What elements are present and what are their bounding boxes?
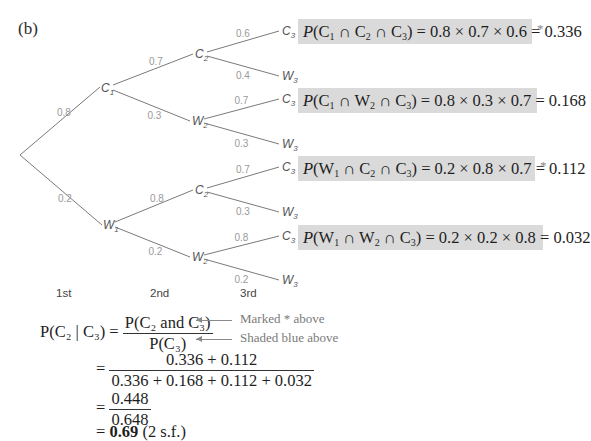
node-c1: C1	[101, 81, 114, 97]
node-w2: W2	[192, 250, 208, 266]
leaf-c3: C3	[282, 160, 296, 176]
probability-calculation-box: P(C1 ∩ W2 ∩ C3) = 0.8 × 0.3 × 0.7 = 0.16…	[298, 88, 537, 113]
asterisk-marker: *	[537, 21, 544, 37]
branch-probability: 0.3	[236, 206, 250, 217]
branch-probability: 0.6	[236, 28, 250, 39]
sum-denominator: 0.336 + 0.168 + 0.112 + 0.032	[109, 370, 314, 391]
leaf-c3: C3	[282, 24, 296, 40]
branch-probability: 0.2	[149, 246, 163, 257]
branch-probability: 0.8	[57, 107, 71, 118]
node-c2: C2	[195, 47, 209, 63]
result-value: 0.69	[109, 422, 138, 441]
equals-sign: =	[96, 359, 105, 378]
tree-branch	[20, 155, 102, 225]
branch-probability: 0.7	[235, 95, 249, 106]
branch-probability: 0.7	[236, 164, 250, 175]
branch-probability: 0.4	[236, 70, 250, 81]
leaf-w3: W3	[282, 205, 298, 221]
node-w2: W2	[192, 114, 208, 130]
equals-sign: =	[96, 422, 105, 441]
stage-label-1st: 1st	[56, 287, 72, 299]
conditional-result: = 0.69 (2 s.f.)	[96, 422, 186, 441]
annotation-shaded: Shaded blue above	[196, 330, 338, 346]
branch-probability: 0.2	[58, 193, 72, 204]
branch-probability: 0.3	[235, 138, 249, 149]
node-w1: W1	[103, 218, 119, 234]
stage-label-2nd: 2nd	[150, 287, 169, 299]
tree-branch	[20, 87, 100, 155]
branch-probability: 0.2	[235, 274, 249, 285]
annotation-marked: Marked * above	[196, 311, 324, 327]
simplified-numerator: 0.448	[109, 389, 150, 409]
leaf-w3: W3	[282, 69, 298, 85]
leaf-w3: W3	[282, 137, 298, 153]
conditional-step-2: = 0.336 + 0.112 0.336 + 0.168 + 0.112 + …	[96, 350, 314, 391]
conditional-step-1: P(C₂ | C₃) = P(C₂ and C₃) P(C₃)	[40, 313, 213, 354]
probability-calculation-box: P(W1 ∩ C2 ∩ C3) = 0.2 × 0.8 × 0.7 = 0.11…	[298, 156, 535, 181]
left-arrow-icon	[196, 339, 232, 340]
probability-calculation-box: P(C1 ∩ C2 ∩ C3) = 0.8 × 0.7 × 0.6 = 0.33…	[298, 19, 532, 44]
leaf-w3: W3	[282, 273, 298, 289]
asterisk-marker: *	[540, 158, 547, 174]
stage-label-3rd: 3rd	[240, 287, 257, 299]
probability-calculation-box: P(W1 ∩ W2 ∩ C3) = 0.2 × 0.2 × 0.8 = 0.03…	[298, 225, 543, 250]
conditional-lhs: P(C₂ | C₃) =	[40, 322, 119, 341]
sum-fraction: 0.336 + 0.112 0.336 + 0.168 + 0.112 + 0.…	[109, 350, 314, 391]
equals-sign: =	[96, 398, 105, 417]
node-c2: C2	[195, 183, 209, 199]
result-precision: (2 s.f.)	[142, 422, 186, 441]
probability-tree-diagram: 0.8C10.2W10.7C20.3W20.8C20.2W20.6C30.4W3…	[0, 0, 554, 300]
annotation-shaded-text: Shaded blue above	[240, 330, 338, 345]
sum-numerator: 0.336 + 0.112	[109, 350, 314, 370]
left-arrow-icon	[196, 320, 232, 321]
annotation-marked-text: Marked * above	[240, 311, 324, 326]
branch-probability: 0.7	[149, 56, 163, 67]
leaf-c3: C3	[282, 229, 296, 245]
branch-probability: 0.8	[235, 232, 249, 243]
leaf-c3: C3	[282, 92, 296, 108]
branch-probability: 0.8	[150, 193, 164, 204]
branch-probability: 0.3	[148, 110, 162, 121]
